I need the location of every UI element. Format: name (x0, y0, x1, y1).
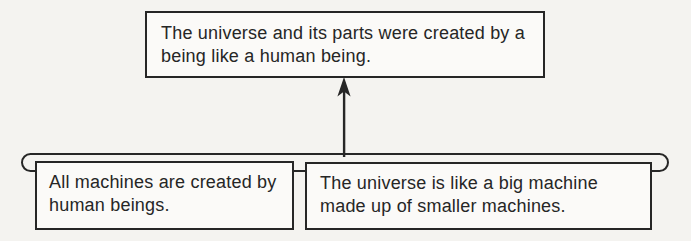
up-arrow-icon (335, 77, 353, 157)
premise-box-right: The universe is like a big machine made … (305, 162, 652, 230)
conclusion-text: The universe and its parts were created … (161, 23, 525, 66)
conclusion-box: The universe and its parts were created … (145, 11, 545, 78)
arrow-stem (343, 89, 345, 157)
argument-diagram: The universe and its parts were created … (0, 0, 691, 241)
premise-right-text: The universe is like a big machine made … (320, 173, 598, 216)
premise-box-left: All machines are created by human beings… (35, 161, 294, 230)
premise-left-text: All machines are created by human beings… (49, 172, 277, 215)
